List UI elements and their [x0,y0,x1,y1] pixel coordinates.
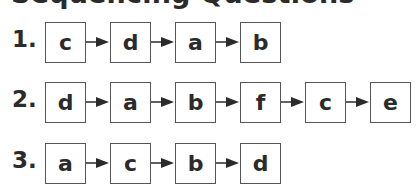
arrow-right-icon [151,36,175,48]
sequence-box: a [110,82,151,123]
arrow-right-icon [216,96,240,108]
sequence-box: e [370,82,411,123]
sequence-box: b [175,143,216,184]
sequence-box: b [240,22,281,63]
question-number: 2. [12,86,37,112]
arrow-right-icon [216,36,240,48]
question-row: 2.dabfce [0,82,418,124]
arrow-right-icon [346,96,370,108]
arrow-right-icon [151,96,175,108]
arrow-right-icon [86,96,110,108]
question-number: 1. [12,26,37,52]
sequence-box: c [45,22,86,63]
question-row: 1.cdab [0,22,418,64]
sequence-box: f [240,82,281,123]
page-title: Sequencing Questions [11,0,355,9]
sequence-box: d [45,82,86,123]
arrow-right-icon [86,36,110,48]
sequence-box: a [45,143,86,184]
sequence-box: b [175,82,216,123]
arrow-right-icon [281,96,305,108]
arrow-right-icon [151,157,175,169]
sequence-box: a [175,22,216,63]
arrow-right-icon [216,157,240,169]
sequence-box: d [110,22,151,63]
question-number: 3. [12,147,37,173]
sequence-box: c [305,82,346,123]
sequence-box: c [110,143,151,184]
question-row: 3.acbd [0,143,418,184]
arrow-right-icon [86,157,110,169]
sequence-box: d [240,143,281,184]
